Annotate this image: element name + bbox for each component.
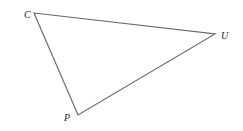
vertex-label-u: U <box>221 30 229 41</box>
vertex-label-p: P <box>63 112 70 123</box>
vertex-label-c: C <box>24 9 31 20</box>
triangle-diagram: C U P <box>0 0 243 131</box>
triangle-cup <box>34 13 215 115</box>
